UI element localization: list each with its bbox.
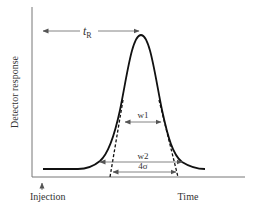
four-sigma-label: 4σ [138, 161, 148, 171]
w1-label: w1 [138, 110, 149, 120]
retention-time-label: tR [83, 24, 92, 40]
injection-label: Injection [30, 191, 66, 202]
w2-label: w2 [138, 151, 149, 161]
chromatogram-diagram: tR w1 w2 4σ Injection Time Detector resp… [0, 0, 256, 217]
x-axis-label: Time [178, 191, 199, 202]
y-axis-label: Detector response [9, 55, 20, 127]
peak-curve [43, 35, 205, 169]
